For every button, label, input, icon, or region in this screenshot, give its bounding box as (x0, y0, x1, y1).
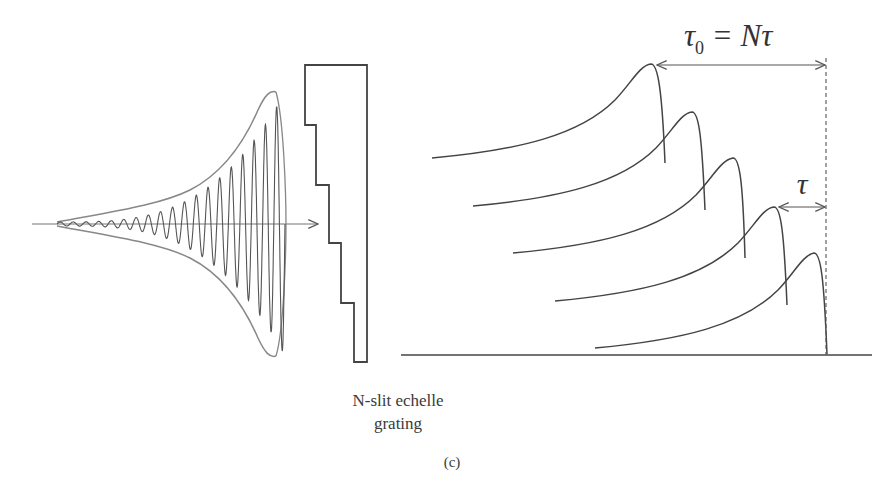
echelle-grating-pulse-diagram: N-slit echelle grating (c) τ0 = Nτ τ (0, 0, 894, 500)
panel-label: (c) (444, 454, 461, 471)
total-delay-label: τ0 = Nτ (684, 18, 774, 58)
pulse-1 (432, 64, 665, 163)
oscillation-wave (57, 107, 285, 351)
echelle-grating (305, 65, 367, 362)
step-delay-label: τ (797, 167, 809, 200)
pulse-4 (555, 207, 787, 305)
incident-wave (32, 92, 318, 357)
pulse-5 (595, 253, 827, 354)
pulse-2 (473, 112, 705, 210)
pulse-train (432, 64, 827, 354)
envelope-lower (57, 226, 276, 356)
pulse-3 (513, 158, 745, 258)
grating-label-line2: grating (374, 414, 423, 433)
grating-label-line1: N-slit echelle (352, 391, 443, 410)
